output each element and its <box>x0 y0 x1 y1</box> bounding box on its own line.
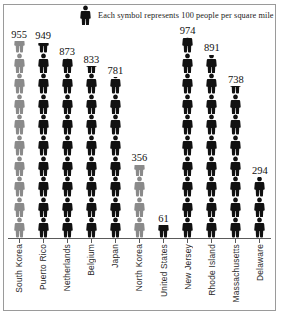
person-icon <box>204 114 219 135</box>
person-icon <box>156 225 171 238</box>
person-icon <box>204 55 219 74</box>
x-axis-tick <box>32 239 54 243</box>
person-icon <box>180 217 195 238</box>
symbol-stack <box>108 77 123 238</box>
person-icon <box>12 176 27 197</box>
person-icon <box>12 135 27 156</box>
person-icon <box>12 114 27 135</box>
person-icon <box>60 197 75 218</box>
x-axis-label: Japan <box>104 244 126 310</box>
person-icon <box>180 114 195 135</box>
column-value-label: 356 <box>132 153 148 164</box>
column-value-label: 873 <box>59 47 75 58</box>
x-axis-tick <box>201 239 223 243</box>
person-icon <box>60 217 75 238</box>
person-icon <box>60 176 75 197</box>
pictograph-column: 294 <box>249 166 271 238</box>
pictograph-column: 738 <box>225 75 247 238</box>
x-axis-tick <box>153 239 175 243</box>
x-axis-tick <box>56 239 78 243</box>
person-icon <box>36 135 51 156</box>
person-icon <box>180 176 195 197</box>
person-icon <box>36 197 51 218</box>
person-icon <box>12 53 27 74</box>
person-icon <box>108 77 123 94</box>
person-icon <box>36 114 51 135</box>
x-axis-tick <box>177 239 199 243</box>
person-icon <box>84 217 99 238</box>
symbol-stack <box>84 66 99 238</box>
person-icon <box>252 177 267 196</box>
column-value-label: 833 <box>83 55 99 66</box>
person-icon <box>228 135 243 156</box>
x-axis-tick <box>249 239 271 243</box>
x-axis-label-text: Puerto Rico <box>38 244 48 290</box>
x-axis-label: Belgium <box>80 244 102 310</box>
person-icon <box>36 43 51 53</box>
column-value-label: 781 <box>108 66 124 77</box>
x-axis-label-text: United States <box>159 244 169 297</box>
x-axis-label-text: Belgium <box>86 244 96 276</box>
person-icon <box>204 73 219 94</box>
symbol-stack <box>156 225 171 238</box>
column-value-label: 949 <box>35 31 51 42</box>
person-icon <box>108 94 123 115</box>
person-icon <box>204 176 219 197</box>
person-icon <box>204 135 219 156</box>
symbol-stack <box>132 165 147 238</box>
symbol-stack <box>36 43 51 238</box>
person-icon <box>12 94 27 115</box>
person-icon <box>228 156 243 177</box>
x-axis-label: Massachusetts <box>225 244 247 310</box>
x-axis-label-text: Massachusetts <box>231 244 241 302</box>
symbol-stack <box>228 86 243 238</box>
x-axis-label: South Korea <box>8 244 30 310</box>
pictograph-column: 61 <box>153 214 175 238</box>
person-icon <box>12 156 27 177</box>
person-icon <box>180 197 195 218</box>
pictograph-column: 955 <box>8 30 30 238</box>
x-axis-tick <box>104 239 126 243</box>
person-icon <box>84 73 99 94</box>
person-icon <box>60 156 75 177</box>
x-axis-tick <box>225 239 247 243</box>
person-icon <box>132 165 147 177</box>
person-icon <box>84 94 99 115</box>
plot-area: 95594987383378135661974891738294 <box>8 26 271 238</box>
x-axis-label-text: North Korea <box>134 244 144 291</box>
person-icon <box>84 156 99 177</box>
person-icon <box>84 114 99 135</box>
person-icon <box>204 217 219 238</box>
x-axis-label: New Jersey <box>177 244 199 310</box>
pictograph-column: 873 <box>56 47 78 238</box>
symbol-stack <box>252 177 267 238</box>
x-axis-label: North Korea <box>128 244 150 310</box>
person-icon <box>204 156 219 177</box>
pictograph-column: 781 <box>104 66 126 238</box>
x-axis-labels: South KoreaPuerto RicoNetherlandsBelgium… <box>8 244 271 310</box>
person-icon <box>180 156 195 177</box>
person-icon <box>36 176 51 197</box>
x-axis-label: Delaware <box>249 244 271 310</box>
person-icon <box>132 217 147 238</box>
pictograph-column: 891 <box>201 43 223 238</box>
person-icon <box>60 135 75 156</box>
x-axis-label-text: South Korea <box>14 244 24 293</box>
x-axis-tick <box>80 239 102 243</box>
x-axis-label-text: New Jersey <box>183 244 193 290</box>
x-axis-label: United States <box>153 244 175 310</box>
person-icon <box>36 73 51 94</box>
person-icon <box>108 135 123 156</box>
column-value-label: 61 <box>158 214 169 225</box>
person-icon <box>252 217 267 238</box>
person-icon <box>132 176 147 197</box>
person-icon <box>228 176 243 197</box>
pictograph-columns: 95594987383378135661974891738294 <box>8 26 271 238</box>
person-icon <box>180 94 195 115</box>
person-icon <box>84 176 99 197</box>
person-icon <box>60 94 75 115</box>
x-axis-label-text: Netherlands <box>62 244 72 291</box>
x-axis-tick <box>128 239 150 243</box>
x-axis-tick <box>8 239 30 243</box>
person-icon <box>228 86 243 94</box>
